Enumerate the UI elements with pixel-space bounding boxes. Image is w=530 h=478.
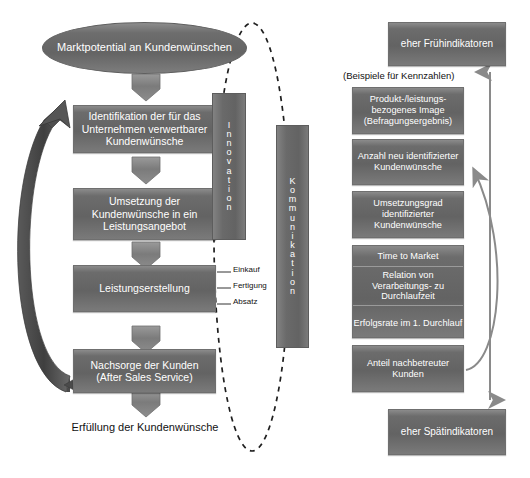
kpi-box-umsetzungsgrad-label: Umsetzungsgrad identifizierter Kundenwün…	[353, 198, 463, 231]
process-box-nachsorge: Nachsorge der Kunden (After Sales Servic…	[73, 349, 216, 393]
kpi-box-anteil-nachbetreuter: Anteil nachbetreuter Kunden	[352, 345, 464, 392]
process-box-leistungserstellung-label: Leistungserstellung	[96, 282, 192, 294]
branch-label-einkauf: Einkauf	[233, 264, 293, 277]
market-potential-label: Marktpotential an Kundenwünschen	[57, 41, 232, 55]
market-potential-ellipse: Marktpotential an Kundenwünschen	[42, 22, 247, 74]
feedback-arrow-left	[18, 100, 78, 392]
kpi-caption: (Beispiele für Kennzahlen)	[343, 70, 483, 82]
vertical-bar-innovation: Innovation	[212, 93, 246, 240]
indicator-box-early: eher Frühindikatoren	[388, 22, 506, 66]
process-box-umsetzung: Umsetzung der Kundenwünsche in ein Leist…	[73, 188, 216, 240]
kpi-box-anzahl-neu: Anzahl neu identifizierter Kundenwünsche	[352, 139, 464, 185]
kpi-feedback-arrow	[466, 170, 498, 370]
branch-label-absatz: Absatz	[233, 296, 293, 309]
process-box-nachsorge-label: Nachsorge der Kunden (After Sales Servic…	[74, 359, 215, 384]
process-box-identifikation-label: Identifikation der für das Unternehmen v…	[74, 110, 215, 147]
chevron-arrow-5	[132, 390, 160, 417]
chevron-arrow-1	[132, 74, 160, 101]
process-box-umsetzung-label: Umsetzung der Kundenwünsche in ein Leist…	[74, 195, 215, 232]
indicator-box-late-label: eher Spätindikatoren	[398, 426, 496, 438]
kpi-stack-relation: Relation von Verarbeitungs- zu Durchlauf…	[353, 266, 463, 305]
kpi-stack-time-to-market: Time to Market	[353, 246, 463, 266]
branch-label-fertigung: Fertigung	[233, 280, 293, 293]
process-box-leistungserstellung: Leistungserstellung	[73, 265, 216, 312]
branch-connector-lines	[217, 272, 231, 304]
diagram-canvas: Marktpotential an Kundenwünschen Identif…	[0, 0, 530, 478]
kpi-stack-erfolgsrate: Erfolgsrate im 1. Durchlauf	[353, 305, 463, 341]
kpi-box-umsetzungsgrad: Umsetzungsgrad identifizierter Kundenwün…	[352, 191, 464, 238]
vertical-bar-kommunikation: Kommunikation	[276, 125, 309, 348]
indicator-box-late: eher Spätindikatoren	[388, 409, 506, 455]
kpi-box-anteil-nachbetreuter-label: Anteil nachbetreuter Kunden	[353, 358, 463, 380]
vbar-char: n	[226, 203, 231, 212]
chevron-arrow-2	[132, 157, 160, 184]
kpi-stack-process: Time to Market Relation von Verarbeitung…	[352, 245, 464, 338]
kpi-box-image: Produkt-/leistungs-bezogenes Image (Befr…	[352, 87, 464, 134]
outcome-text: Erfüllung der Kundenwünsche	[64, 420, 226, 434]
indicator-box-early-label: eher Frühindikatoren	[398, 38, 496, 50]
process-box-identifikation: Identifikation der für das Unternehmen v…	[73, 105, 216, 153]
kpi-box-image-label: Produkt-/leistungs-bezogenes Image (Befr…	[353, 94, 463, 127]
kpi-box-anzahl-neu-label: Anzahl neu identifizierter Kundenwünsche	[353, 151, 463, 173]
